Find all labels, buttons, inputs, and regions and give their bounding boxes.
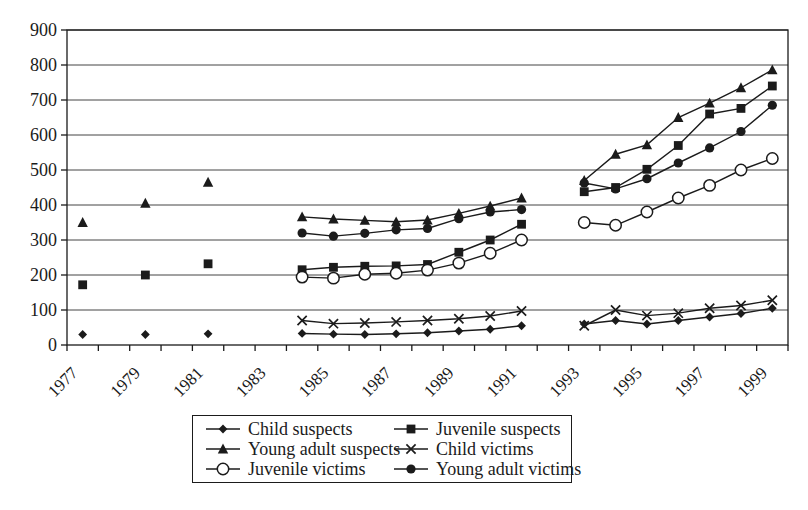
x-axis-label: 1985: [295, 363, 332, 400]
legend-label: Juvenile suspects: [436, 420, 560, 438]
open-circle-marker-icon: [704, 180, 715, 191]
series-child-victims: [298, 296, 777, 331]
y-axis-label: 800: [30, 55, 57, 75]
square-marker-icon: [407, 425, 416, 434]
diamond-marker-icon: [454, 327, 463, 336]
square-marker-icon: [643, 165, 652, 174]
x-axis-label: 1977: [44, 363, 82, 401]
y-axis-label: 900: [30, 20, 57, 40]
x-axis-label: 1989: [420, 363, 457, 400]
diamond-marker-icon: [205, 422, 241, 436]
square-marker-icon: [141, 271, 150, 280]
square-marker-icon: [78, 280, 87, 289]
legend-item-child-victims: Child victims: [393, 440, 581, 458]
open-circle-marker-icon: [296, 271, 307, 282]
open-circle-marker-icon: [767, 153, 778, 164]
filled-circle-marker-icon: [329, 232, 338, 241]
diamond-marker-icon: [611, 316, 620, 325]
x-axis-label: 1999: [734, 363, 771, 400]
square-marker-icon: [329, 263, 338, 272]
triangle-marker-icon: [767, 65, 777, 75]
diamond-marker-icon: [392, 329, 401, 338]
filled-circle-marker-icon: [423, 224, 432, 233]
open-circle-marker-icon: [205, 462, 241, 476]
open-circle-marker-icon: [359, 269, 370, 280]
x-axis-label: 1993: [546, 363, 583, 400]
diamond-marker-icon: [643, 320, 652, 329]
open-circle-marker-icon: [735, 164, 746, 175]
square-marker-icon: [204, 259, 213, 268]
diamond-marker-icon: [517, 321, 526, 330]
square-marker-icon: [454, 248, 463, 257]
square-marker-icon: [737, 104, 746, 113]
y-axis-label: 700: [30, 90, 57, 110]
x-axis-label: 1987: [358, 363, 396, 401]
axes: 0100200300400500600700800900197719791981…: [30, 20, 788, 401]
square-marker-icon: [674, 141, 683, 150]
series-young-adult-suspects: [77, 65, 777, 227]
x-axis-label: 1997: [671, 363, 709, 401]
legend-label: Young adult suspects: [248, 440, 400, 458]
diamond-marker-icon: [329, 330, 338, 339]
filled-circle-marker-icon: [486, 207, 495, 216]
filled-circle-marker-icon: [393, 462, 429, 476]
open-circle-marker-icon: [579, 217, 590, 228]
diamond-marker-icon: [204, 329, 213, 338]
diamond-marker-icon: [486, 325, 495, 334]
square-marker-icon: [486, 236, 495, 245]
filled-circle-marker-icon: [392, 225, 401, 234]
x-axis-label: 1991: [483, 363, 520, 400]
diamond-marker-icon: [360, 330, 369, 339]
diamond-marker-icon: [78, 330, 87, 339]
series-line: [584, 86, 772, 192]
legend: Child suspects Juvenile suspects Young a…: [192, 415, 572, 483]
filled-circle-marker-icon: [517, 205, 526, 214]
y-axis-label: 600: [30, 125, 57, 145]
square-marker-icon: [517, 220, 526, 229]
triangle-marker-icon: [205, 442, 241, 456]
filled-circle-marker-icon: [674, 158, 683, 167]
x-marker-icon: [393, 442, 429, 456]
diamond-marker-icon: [705, 313, 714, 322]
y-axis-label: 500: [30, 160, 57, 180]
triangle-marker-icon: [203, 177, 213, 187]
open-circle-marker-icon: [390, 268, 401, 279]
x-axis-label: 1981: [169, 363, 206, 400]
square-marker-icon: [705, 110, 714, 119]
open-circle-marker-icon: [673, 192, 684, 203]
triangle-marker-icon: [673, 112, 683, 122]
y-axis-label: 200: [30, 265, 57, 285]
open-circle-marker-icon: [217, 463, 228, 474]
x-axis-label: 1983: [232, 363, 269, 400]
y-axis-label: 0: [48, 335, 57, 355]
diamond-marker-icon: [298, 329, 307, 338]
filled-circle-marker-icon: [611, 184, 620, 193]
plot-border: [67, 30, 788, 345]
open-circle-marker-icon: [610, 220, 621, 231]
triangle-marker-icon: [704, 98, 714, 108]
legend-item-young-adult-suspects: Young adult suspects: [205, 440, 393, 458]
open-circle-marker-icon: [328, 272, 339, 283]
x-axis-label: 1995: [608, 363, 645, 400]
open-circle-marker-icon: [453, 257, 464, 268]
filled-circle-marker-icon: [642, 174, 651, 183]
triangle-marker-icon: [736, 82, 746, 92]
filled-circle-marker-icon: [360, 229, 369, 238]
triangle-marker-icon: [77, 217, 87, 227]
filled-circle-marker-icon: [580, 178, 589, 187]
legend-item-juvenile-victims: Juvenile victims: [205, 460, 393, 478]
series-young-adult-victims: [298, 101, 777, 241]
legend-label: Young adult victims: [436, 460, 581, 478]
legend-label: Child suspects: [248, 420, 353, 438]
filled-circle-marker-icon: [705, 143, 714, 152]
y-axis-label: 100: [30, 300, 57, 320]
legend-label: Juvenile victims: [248, 460, 365, 478]
filled-circle-marker-icon: [736, 127, 745, 136]
filled-circle-marker-icon: [298, 228, 307, 237]
legend-label: Child victims: [436, 440, 534, 458]
square-marker-icon: [768, 82, 777, 91]
triangle-marker-icon: [140, 198, 150, 208]
open-circle-marker-icon: [641, 206, 652, 217]
open-circle-marker-icon: [484, 248, 495, 259]
series-juvenile-suspects: [78, 82, 776, 290]
